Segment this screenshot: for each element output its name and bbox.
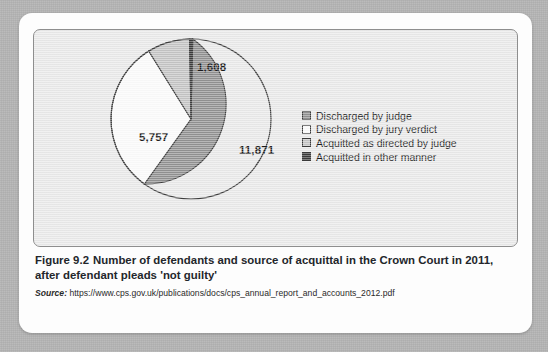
chart-legend: Discharged by judge Discharged by jury v… xyxy=(302,109,510,163)
legend-item-discharged-by-jury-verdict[interactable]: Discharged by jury verdict xyxy=(302,123,510,137)
legend-item-label: Discharged by jury verdict xyxy=(316,123,437,135)
caption-source: Source: https://www.cps.gov.uk/publicati… xyxy=(35,288,519,299)
legend-item-label: Acquitted as directed by judge xyxy=(316,137,457,149)
pie-label-discharged-by-judge: 11,871 xyxy=(239,144,274,156)
legend-swatch-icon xyxy=(302,125,311,134)
chart-panel: 11,871 5,757 1,608 Discharged by judge D… xyxy=(33,29,518,247)
pie-label-discharged-by-jury-verdict: 5,757 xyxy=(139,131,168,143)
legend-swatch-icon xyxy=(302,111,311,120)
figure-number: Figure 9.2 xyxy=(35,254,89,266)
caption-text: Number of defendants and source of acqui… xyxy=(35,254,493,281)
caption-title: Figure 9.2Number of defendants and sourc… xyxy=(35,253,519,283)
legend-item-label: Acquitted in other manner xyxy=(316,151,436,163)
legend-swatch-icon xyxy=(302,138,311,147)
legend-item-acquitted-as-directed-by-judge[interactable]: Acquitted as directed by judge xyxy=(302,136,510,150)
pie-chart: 11,871 5,757 1,608 xyxy=(108,36,274,202)
legend-swatch-icon xyxy=(302,152,311,161)
figure-card: 11,871 5,757 1,608 Discharged by judge D… xyxy=(19,13,532,333)
pie-chart-svg xyxy=(108,36,274,202)
legend-item-label: Discharged by judge xyxy=(316,110,412,122)
source-label: Source: xyxy=(35,288,67,298)
figure-caption: Figure 9.2Number of defendants and sourc… xyxy=(35,253,519,299)
pie-label-acquitted-as-directed-by-judge: 1,608 xyxy=(197,61,226,73)
source-url[interactable]: https://www.cps.gov.uk/publications/docs… xyxy=(69,288,394,298)
legend-item-discharged-by-judge[interactable]: Discharged by judge xyxy=(302,109,510,123)
legend-item-acquitted-in-other-manner[interactable]: Acquitted in other manner xyxy=(302,150,510,164)
